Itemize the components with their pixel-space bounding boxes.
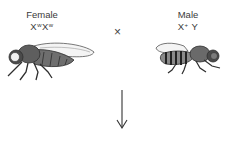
fruit-fly-female-icon (4, 38, 96, 84)
male-parent-label: Male X+ Y (163, 10, 213, 32)
fruit-fly-male-icon (154, 40, 226, 76)
male-genotype: X+ Y (163, 20, 213, 32)
female-sex-label: Female (17, 10, 67, 20)
down-arrow-icon (116, 88, 128, 130)
male-sex-label: Male (163, 10, 213, 20)
cross-symbol: × (114, 25, 121, 39)
female-genotype: XwXw (17, 20, 67, 32)
female-parent-label: Female XwXw (17, 10, 67, 32)
